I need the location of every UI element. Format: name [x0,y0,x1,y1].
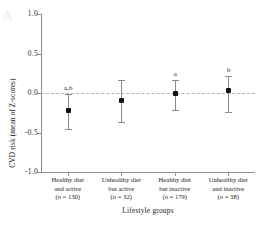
error-bar-cap-upper [172,80,179,81]
x-category-line-1: Healthy diet [147,176,203,185]
plot-area: 1.00.50.0-0.5-1.0 a,bab [41,14,255,172]
figure-cvd-risk-by-lifestyle-group: A 1.00.50.0-0.5-1.0 a,bab CVD risk (mean… [0,0,269,234]
x-category-label: Healthy dietbut inactive(n = 179) [147,176,203,202]
x-category-sample-size: (n = 38) [200,193,256,202]
data-point-marker [66,108,71,113]
x-category-line-2: and active [40,185,96,194]
x-axis-title: Lifestyle groups [41,206,255,215]
significance-label: a [174,70,177,78]
y-tick-3: -0.5 [41,133,42,134]
x-category-line-1: Unhealthy diet [200,176,256,185]
error-bar-cap-upper [118,80,125,81]
error-bar-line [228,76,229,112]
significance-label: a,b [64,84,72,92]
error-bar-cap-upper [225,76,232,77]
x-axis-line [41,172,255,173]
x-category-label: Unhealthy dietbut active(n = 32) [93,176,149,202]
significance-label: b [227,66,231,74]
x-category-line-2: but inactive [147,185,203,194]
error-bar-cap-lower [225,112,232,113]
cut-off-caption-strip [6,224,264,232]
x-category-sample-size: (n = 32) [93,193,149,202]
y-tick-label: -1.0 [25,166,38,177]
x-category-sample-size: (n = 130) [40,193,96,202]
data-point-marker [173,91,178,96]
x-category-line-2: but active [93,185,149,194]
zero-reference-line [41,93,255,94]
y-tick-1: 0.5 [41,54,42,55]
error-bar-cap-lower [172,110,179,111]
x-axis-category-labels: Healthy dietand active(n = 130)Unhealthy… [41,176,255,206]
y-axis-title: CVD risk (mean of Z-scores) [8,58,17,188]
y-tick-2: 0.0 [41,93,42,94]
y-tick-label: 0.0 [28,87,38,98]
data-point-marker [226,88,231,93]
scan-watermark: A [2,8,13,25]
data-point-marker [119,98,124,103]
y-tick-label: 1.0 [28,8,38,19]
x-category-sample-size: (n = 179) [147,193,203,202]
y-tick-4: -1.0 [41,172,42,173]
x-category-line-1: Healthy diet [40,176,96,185]
error-bar-cap-lower [118,122,125,123]
y-tick-0: 1.0 [41,14,42,15]
y-tick-label: 0.5 [28,48,38,59]
x-category-label: Healthy dietand active(n = 130) [40,176,96,202]
y-tick-label: -0.5 [25,127,38,138]
x-category-line-2: and inactive [200,185,256,194]
x-category-label: Unhealthy dietand inactive(n = 38) [200,176,256,202]
error-bar-cap-lower [65,129,72,130]
error-bar-cap-upper [65,94,72,95]
x-category-line-1: Unhealthy diet [93,176,149,185]
